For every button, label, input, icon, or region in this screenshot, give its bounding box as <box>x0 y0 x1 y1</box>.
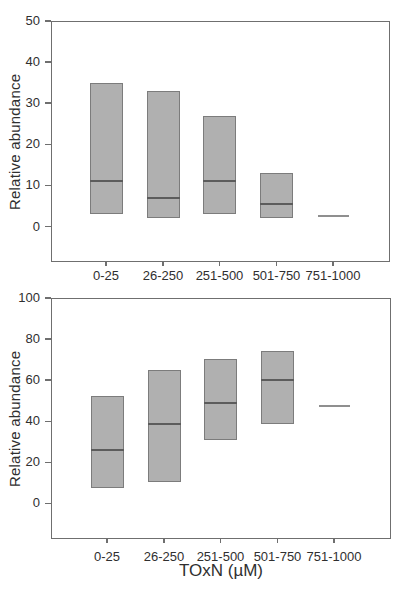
bottom-range-box-0-25 <box>91 396 124 488</box>
top-median-line-251-500 <box>203 180 236 182</box>
top-y-tick-label: 0 <box>10 219 40 235</box>
bottom-category-label-751-1000: 751-1000 <box>298 549 370 564</box>
top-range-line-751-1000 <box>318 215 349 217</box>
top-y-tick-label: 50 <box>10 13 40 29</box>
top-x-tick <box>332 262 334 266</box>
top-range-box-26-250 <box>147 91 180 218</box>
top-x-tick <box>219 262 221 266</box>
top-y-tick-label: 30 <box>10 95 40 111</box>
top-y-tick-label: 10 <box>10 177 40 193</box>
x-axis-title: TOxN (µM) <box>51 561 391 581</box>
figure: Relative abundance Relative abundance TO… <box>0 0 409 593</box>
bottom-y-tick <box>45 462 51 464</box>
bottom-y-tick <box>45 379 51 381</box>
bottom-y-tick <box>45 338 51 340</box>
bottom-y-tick-label: 80 <box>10 331 40 347</box>
top-y-tick <box>45 185 51 187</box>
bottom-y-tick-label: 0 <box>10 495 40 511</box>
bottom-y-tick <box>45 297 51 299</box>
top-range-box-501-750 <box>260 173 293 218</box>
top-y-tick <box>45 20 51 22</box>
top-range-box-251-500 <box>203 116 236 215</box>
top-range-box-0-25 <box>90 83 123 215</box>
top-y-tick <box>45 226 51 228</box>
bottom-y-tick <box>45 421 51 423</box>
bottom-x-tick <box>163 539 165 543</box>
bottom-median-line-26-250 <box>148 423 181 425</box>
top-x-tick <box>162 262 164 266</box>
bottom-median-line-251-500 <box>204 402 237 404</box>
top-y-tick-label: 40 <box>10 54 40 70</box>
top-x-tick <box>105 262 107 266</box>
top-x-tick <box>276 262 278 266</box>
bottom-y-tick <box>45 503 51 505</box>
top-y-tick-label: 20 <box>10 136 40 152</box>
bottom-y-tick-label: 40 <box>10 413 40 429</box>
top-category-label-751-1000: 751-1000 <box>297 268 369 283</box>
bottom-range-line-751-1000 <box>319 405 350 407</box>
bottom-x-tick <box>277 539 279 543</box>
top-y-tick <box>45 144 51 146</box>
top-median-line-0-25 <box>90 180 123 182</box>
bottom-x-tick <box>333 539 335 543</box>
bottom-median-line-0-25 <box>91 449 124 451</box>
bottom-median-line-501-750 <box>261 379 294 381</box>
bottom-range-box-251-500 <box>204 359 237 440</box>
bottom-y-tick-label: 20 <box>10 454 40 470</box>
bottom-y-tick-label: 100 <box>10 290 40 306</box>
top-y-tick <box>45 61 51 63</box>
bottom-x-tick <box>106 539 108 543</box>
top-median-line-26-250 <box>147 197 180 199</box>
bottom-range-box-26-250 <box>148 370 181 482</box>
bottom-y-tick-label: 60 <box>10 372 40 388</box>
bottom-x-tick <box>220 539 222 543</box>
top-y-tick <box>45 102 51 104</box>
bottom-range-box-501-750 <box>261 351 294 424</box>
top-median-line-501-750 <box>260 203 293 205</box>
